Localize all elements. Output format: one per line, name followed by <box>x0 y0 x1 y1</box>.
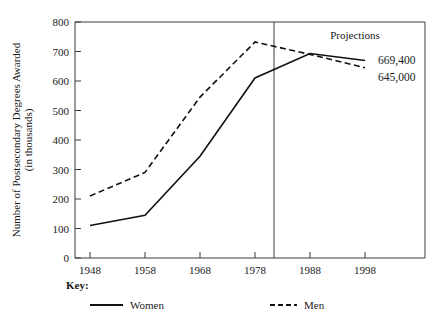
plot-frame <box>75 22 425 258</box>
chart-container: 0 100 200 300 400 500 600 700 800 Number… <box>0 0 446 320</box>
y-axis-tick-labels: 0 100 200 300 400 500 600 700 800 <box>53 16 70 264</box>
y-axis-title-line1: Number of Postsecondary Degrees Awarded <box>10 42 22 237</box>
projections-label: Projections <box>330 29 380 41</box>
x-tick-label-1968: 1968 <box>189 264 212 276</box>
y-tick-label-700: 700 <box>53 46 70 58</box>
x-tick-label-1988: 1988 <box>299 264 322 276</box>
end-label-women: 669,400 <box>378 54 416 67</box>
y-tick-label-800: 800 <box>53 16 70 28</box>
legend-item-men: Men <box>270 299 325 311</box>
y-tick-label-400: 400 <box>53 134 70 146</box>
chart-legend: Key: Women Men <box>66 279 325 311</box>
y-tick-label-500: 500 <box>53 105 70 117</box>
y-tick-label-300: 300 <box>53 164 70 176</box>
y-tick-label-0: 0 <box>64 252 70 264</box>
y-axis-ticks <box>75 22 81 258</box>
y-tick-label-100: 100 <box>53 223 70 235</box>
legend-label-men: Men <box>304 299 325 311</box>
y-axis-title-line2: (in thousands) <box>22 108 35 171</box>
y-tick-label-200: 200 <box>53 193 70 205</box>
legend-title: Key: <box>66 279 89 291</box>
legend-item-women: Women <box>90 299 164 311</box>
legend-label-women: Women <box>130 299 164 311</box>
x-tick-label-1978: 1978 <box>244 264 267 276</box>
series-line-women <box>90 54 365 226</box>
x-axis-ticks <box>90 252 365 258</box>
y-tick-label-600: 600 <box>53 75 70 87</box>
x-tick-label-1948: 1948 <box>79 264 102 276</box>
x-axis-tick-labels: 1948 1958 1968 1978 1988 1998 <box>79 264 377 276</box>
x-tick-label-1998: 1998 <box>354 264 377 276</box>
series-line-men <box>90 42 365 196</box>
line-chart: 0 100 200 300 400 500 600 700 800 Number… <box>0 0 446 320</box>
end-label-men: 645,000 <box>378 71 416 84</box>
y-axis-title: Number of Postsecondary Degrees Awarded … <box>10 42 35 237</box>
x-tick-label-1958: 1958 <box>134 264 157 276</box>
